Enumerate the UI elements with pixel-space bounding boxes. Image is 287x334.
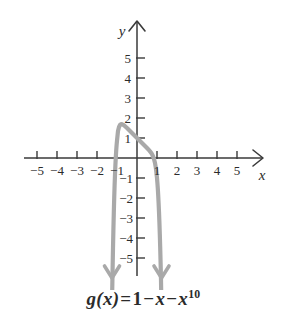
- x-tick-label: 3: [194, 163, 201, 178]
- caption-constant: 1: [132, 288, 142, 309]
- coordinate-plane: −5 −4 −3 −2 −1 1 2 3 4 5 5 4 3 2 1 −1 −2…: [0, 0, 287, 290]
- x-tick-label: 4: [214, 163, 221, 178]
- caption-term-power-exponent: 10: [188, 288, 200, 301]
- x-tick-label: 1: [154, 163, 161, 178]
- y-tick-label: −5: [119, 251, 133, 266]
- x-tick-label: −5: [30, 163, 44, 178]
- function-graph-figure: −5 −4 −3 −2 −1 1 2 3 4 5 5 4 3 2 1 −1 −2…: [0, 0, 287, 334]
- x-tick-label: 2: [174, 163, 181, 178]
- y-tick-label: −1: [119, 171, 133, 186]
- caption-minus-second: −: [165, 288, 178, 309]
- y-tick-label: 5: [125, 51, 132, 66]
- x-tick-label: −4: [50, 163, 64, 178]
- caption-equals: =: [119, 288, 132, 309]
- y-tick-label: −3: [119, 211, 133, 226]
- caption-minus-first: −: [142, 288, 155, 309]
- caption-argument: (x): [96, 288, 119, 309]
- y-tick-label: 3: [125, 91, 132, 106]
- y-tick-label: −2: [119, 191, 133, 206]
- caption-term-power-base: x: [178, 288, 188, 309]
- y-tick-label: 4: [125, 71, 132, 86]
- function-caption: g(x)=1−x−x10: [0, 288, 287, 310]
- x-tick-label: −2: [90, 163, 104, 178]
- y-tick-label: −4: [119, 231, 133, 246]
- caption-term-x: x: [155, 288, 165, 309]
- x-axis-label: x: [258, 167, 266, 183]
- caption-function-name: g: [86, 288, 96, 309]
- x-tick-label: −3: [70, 163, 84, 178]
- y-tick-label: 1: [125, 131, 132, 146]
- y-axis-label: y: [117, 23, 126, 39]
- x-tick-label: 5: [234, 163, 241, 178]
- y-tick-label: 2: [125, 111, 132, 126]
